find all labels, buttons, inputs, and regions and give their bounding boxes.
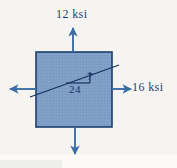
slope-base-label: 24 [69,83,81,95]
stress-element-figure: 12 ksi 16 ksi 24 7 [0,0,177,168]
stress-label-right: 16 ksi [132,80,163,95]
stress-label-top: 12 ksi [56,7,87,22]
slope-height-label: 7 [87,70,93,82]
